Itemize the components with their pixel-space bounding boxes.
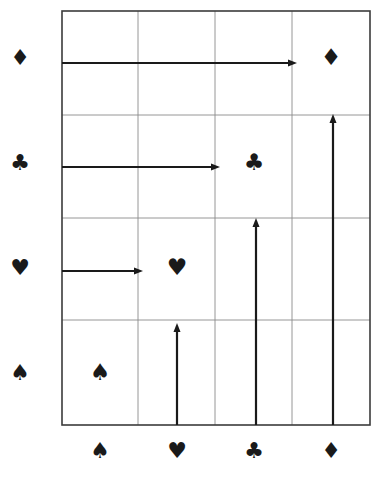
plot-canvas: ♦♣♥♠ ♦♣♥♠ ♠♥♣♦ [0,0,380,481]
arrow-h-diamond [62,60,297,67]
y-axis-labels-group: ♦♣♥♠ [10,45,30,385]
data-points-group: ♦♣♥♠ [90,44,342,385]
arrow-v-club [253,218,260,425]
y-label-spade: ♠ [10,360,30,385]
x-label-club: ♣ [244,438,264,463]
point-club-club: ♣ [244,149,265,175]
arrow-h-club-head [211,164,220,171]
y-label-heart: ♥ [10,255,30,280]
y-label-club: ♣ [10,150,30,175]
y-label-diamond: ♦ [10,45,30,70]
x-label-heart: ♥ [167,438,187,463]
arrow-h-diamond-head [288,60,297,67]
arrow-h-heart-head [134,268,143,275]
arrow-v-heart-head [174,323,181,332]
x-label-spade: ♠ [90,438,110,463]
suit-lattice-figure: ♦♣♥♠ ♦♣♥♠ ♠♥♣♦ [0,0,380,481]
point-diamond-diamond: ♦ [321,44,342,70]
arrow-h-heart [62,268,143,275]
arrow-v-heart [174,323,181,425]
point-heart-heart: ♥ [167,254,188,280]
arrow-h-club [62,164,220,171]
point-spade-spade: ♠ [90,359,111,385]
x-axis-labels-group: ♠♥♣♦ [90,438,341,463]
arrow-v-diamond [330,114,337,425]
x-label-diamond: ♦ [321,438,341,463]
arrow-v-club-head [253,218,260,227]
